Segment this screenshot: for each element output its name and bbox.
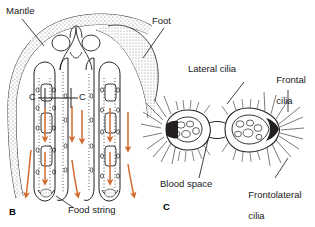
food-string-right <box>105 189 116 197</box>
label-frontolateral-cilia-line2: cilia <box>248 210 264 221</box>
label-lateral-cilia: Lateral cilia <box>188 64 236 75</box>
flow-arrows <box>26 106 134 196</box>
panel-label-c: C <box>163 201 170 212</box>
gill-demibranch-left <box>34 58 76 201</box>
section-line-cc <box>38 88 78 108</box>
label-blood-space: Blood space <box>160 179 212 190</box>
label-frontal-cilia-line1: Frontal <box>276 74 306 85</box>
label-food-string: Food string <box>68 205 116 216</box>
figure-bivalve-gill: Mantle Foot Food string Lateral cilia Fr… <box>0 0 315 227</box>
food-string-left <box>41 189 52 197</box>
label-frontolateral-cilia: Frontolateral cilia <box>243 179 302 221</box>
label-frontal-cilia: Frontal cilia <box>271 64 306 106</box>
label-frontolateral-cilia-line1: Frontolateral <box>248 189 301 200</box>
interfilament-junction <box>209 122 225 139</box>
section-marker-left: C <box>29 92 36 103</box>
label-mantle: Mantle <box>6 6 35 17</box>
foot-mass <box>96 25 158 118</box>
gill-demibranch-right <box>84 58 120 201</box>
label-frontal-cilia-line2: cilia <box>276 95 292 106</box>
section-marker-right: C <box>79 92 86 103</box>
panel-label-b: B <box>9 206 16 217</box>
label-foot: Foot <box>152 16 171 27</box>
